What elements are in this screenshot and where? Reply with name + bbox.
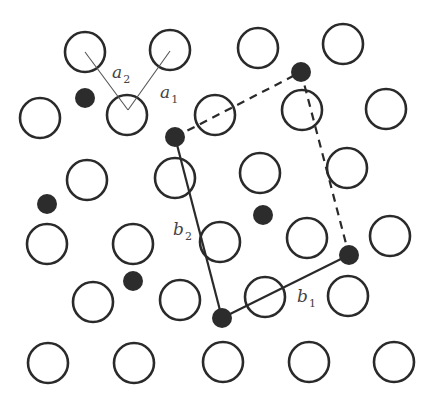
label-a1: a1 xyxy=(160,82,178,106)
adsorbate-atom xyxy=(37,194,57,214)
substrate-atoms xyxy=(20,24,414,383)
substrate-atom xyxy=(113,224,153,264)
adsorbate-atom xyxy=(165,127,185,147)
substrate-atom xyxy=(289,342,329,382)
adsorbate-atom xyxy=(253,205,273,225)
substrate-atom xyxy=(203,342,243,382)
substrate-atom xyxy=(73,282,113,322)
substrate-atom xyxy=(370,216,410,256)
adsorbate-atom xyxy=(339,245,359,265)
substrate-atom xyxy=(238,28,278,68)
substrate-atom xyxy=(323,24,363,64)
adsorbate-atom xyxy=(75,88,95,108)
substrate-atom xyxy=(240,153,280,193)
adsorbate-atom xyxy=(291,62,311,82)
substrate-atom xyxy=(114,343,154,383)
substrate-atom xyxy=(150,30,190,70)
substrate-atom xyxy=(287,218,327,258)
substrate-atom xyxy=(282,90,322,130)
label-a2: a2 xyxy=(112,62,130,86)
label-b1: b1 xyxy=(297,286,316,310)
lattice-diagram: a1 a2 b1 b2 xyxy=(0,0,434,408)
substrate-atom xyxy=(28,343,68,383)
substrate-atom xyxy=(20,98,60,138)
substrate-atom xyxy=(374,342,414,382)
substrate-atom xyxy=(366,89,406,129)
substrate-atom xyxy=(27,224,67,264)
substrate-atom xyxy=(328,276,368,316)
substrate-atom xyxy=(107,95,147,135)
substrate-atom xyxy=(67,160,107,200)
label-b2: b2 xyxy=(173,219,192,243)
adsorbate-atoms xyxy=(37,62,359,328)
adsorbate-atom xyxy=(123,271,143,291)
substrate-atom xyxy=(327,148,367,188)
substrate-atom xyxy=(195,95,235,135)
substrate-atom xyxy=(160,280,200,320)
adsorbate-atom xyxy=(212,308,232,328)
